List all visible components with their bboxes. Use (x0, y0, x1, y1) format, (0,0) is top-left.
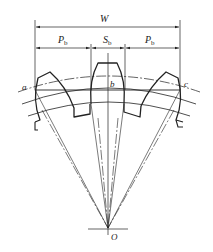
pb-left-label: Pb (57, 34, 68, 47)
point-b-label: b (110, 79, 115, 89)
center-o-label: O (111, 232, 118, 242)
point-a-label: a (22, 82, 27, 92)
gear-tooth-right (141, 72, 183, 122)
radial-lines (35, 90, 180, 228)
gear-teeth (35, 63, 183, 130)
gear-span-measurement-diagram: W Pb Sb Pb (0, 0, 213, 252)
w-label: W (100, 13, 110, 24)
point-c-label: c (184, 79, 188, 89)
sb-label: Sb (103, 34, 112, 47)
root-circle-arc (28, 102, 190, 116)
pb-right-label: Pb (144, 34, 155, 47)
